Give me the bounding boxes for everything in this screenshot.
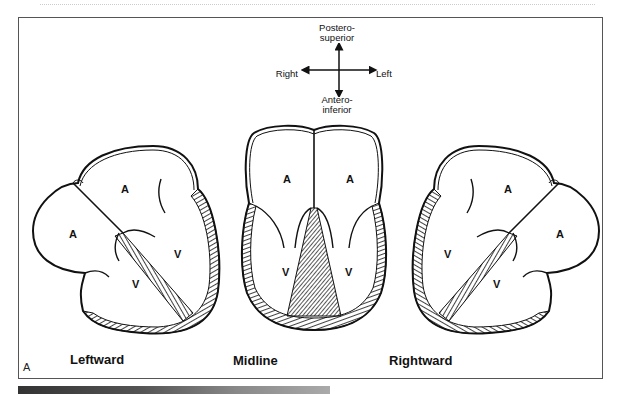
caption-midline: Midline	[233, 353, 278, 368]
orientation-top-label: Postero- superior	[312, 23, 362, 43]
rightward-chamber-v1: V	[444, 248, 451, 260]
leftward-chamber-v1: V	[174, 248, 181, 260]
leftward-chamber-a1: A	[121, 183, 129, 195]
orientation-bottom-line2: inferior	[312, 105, 362, 115]
midline-chamber-a1: A	[283, 173, 291, 185]
rightward-chamber-a2: A	[556, 228, 564, 240]
heart-leftward-diagram	[23, 141, 233, 341]
figure-frame: Postero- superior Right Left Antero- inf…	[18, 17, 603, 379]
page-top-edge	[40, 0, 595, 5]
caption-leftward: Leftward	[70, 352, 124, 367]
rightward-chamber-v2: V	[493, 278, 500, 290]
orientation-bottom-label: Antero- inferior	[312, 95, 362, 115]
midline-chamber-a2: A	[346, 173, 354, 185]
panel-label: A	[23, 361, 30, 373]
bottom-dark-bar	[18, 386, 330, 394]
midline-chamber-v1: V	[282, 266, 289, 278]
orientation-right-label: Right	[258, 69, 298, 79]
caption-rightward: Rightward	[389, 353, 453, 368]
orientation-compass: Postero- superior Right Left Antero- inf…	[274, 23, 394, 123]
rightward-chamber-a1: A	[504, 183, 512, 195]
heart-rightward-diagram	[399, 141, 609, 341]
heart-midline-diagram	[229, 118, 399, 338]
orientation-top-line2: superior	[312, 33, 362, 43]
leftward-chamber-a2: A	[69, 228, 77, 240]
compass-arrows-icon	[299, 43, 379, 97]
leftward-chamber-v2: V	[132, 278, 139, 290]
orientation-left-label: Left	[376, 69, 406, 79]
midline-chamber-v2: V	[345, 266, 352, 278]
